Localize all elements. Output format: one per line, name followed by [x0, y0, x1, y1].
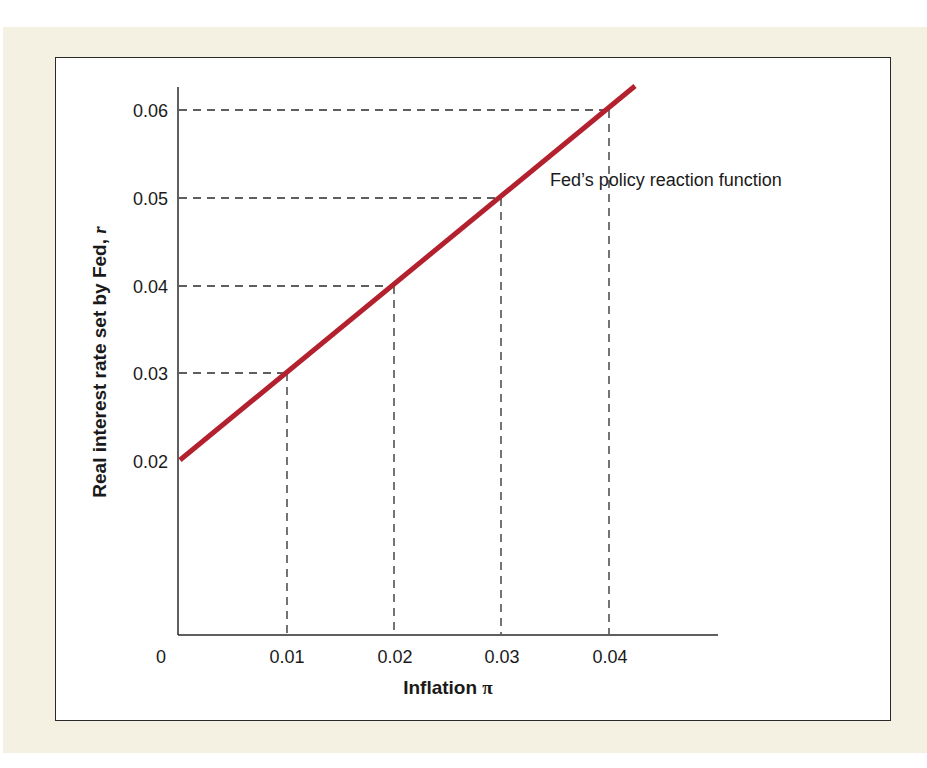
- x-tick-label: 0.01: [269, 647, 304, 667]
- x-axis-title: Inflation π: [403, 677, 493, 698]
- x-tick-label: 0.03: [484, 647, 519, 667]
- x-tick-label: 0.02: [377, 647, 412, 667]
- y-tick-label: 0.03: [133, 364, 168, 384]
- y-tick-label: 0.06: [133, 101, 168, 121]
- x-tick-labels: 0 0.01 0.02 0.03 0.04: [156, 647, 628, 667]
- y-tick-label: 0.04: [133, 277, 168, 297]
- y-tick-label: 0.05: [133, 189, 168, 209]
- curve-label: Fed’s policy reaction function: [550, 170, 782, 190]
- y-axis-title: Real interest rate set by Fed, r: [89, 226, 110, 498]
- chart-svg: 0.06 0.05 0.04 0.03 0.02 0 0.01 0.02 0.0…: [0, 0, 927, 768]
- y-tick-label: 0.02: [133, 452, 168, 472]
- reference-guides: [179, 110, 609, 634]
- y-tick-labels: 0.06 0.05 0.04 0.03 0.02: [133, 101, 168, 472]
- policy-reaction-curve: [180, 86, 635, 460]
- x-tick-label: 0.04: [592, 647, 627, 667]
- origin-label: 0: [156, 647, 166, 667]
